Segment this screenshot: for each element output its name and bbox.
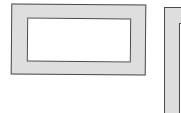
left-frame — [11, 3, 147, 75]
right-frame-inner-panel — [179, 23, 181, 113]
right-frame — [164, 7, 181, 113]
left-frame-inner-panel — [27, 18, 131, 63]
